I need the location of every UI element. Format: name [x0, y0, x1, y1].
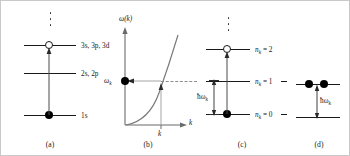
panel-d: ħωk (d): [287, 1, 350, 156]
panel-b-axes: [99, 1, 197, 156]
panel-b-to-c-dashed-link: [161, 81, 197, 82]
panel-c-energy-gap-label: ħωk: [197, 93, 208, 103]
panel-b-marker-filled-circle: [121, 77, 129, 85]
panel-a-transition-arrow: [1, 1, 99, 156]
panel-a-caption: (a): [1, 140, 99, 149]
panel-c-caption: (c): [197, 140, 287, 149]
panel-a: 3s, 3p, 3d 2s, 2p 1s (a): [1, 1, 99, 156]
panel-d-energy-gap-arrow: [287, 1, 350, 156]
panel-c-energy-gap-arrow: [197, 1, 287, 156]
panel-d-energy-gap-label: ħωk: [320, 97, 331, 107]
panel-c: nk = 2 nk = 1 nk = 0 ħωk (c): [197, 1, 287, 156]
panel-b-omega-k-label: ωk: [104, 77, 112, 87]
panel-b-xaxis-label: k: [189, 119, 192, 126]
physics-figure: 3s, 3p, 3d 2s, 2p 1s (a): [0, 0, 350, 156]
panel-b-caption: (b): [99, 140, 197, 149]
panel-b-k-tick-label: k: [158, 130, 161, 137]
panel-b-yaxis-label: ω(k): [119, 15, 132, 22]
panel-d-caption: (d): [287, 140, 350, 149]
panel-b: ω(k) ωk k k (b): [99, 1, 197, 156]
